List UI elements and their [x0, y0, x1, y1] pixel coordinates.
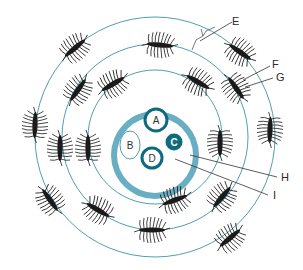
hairy-organism-icon — [207, 125, 233, 161]
callout-h: H — [281, 171, 289, 183]
hairy-organism-icon — [91, 64, 135, 105]
hairy-organism-icon — [256, 112, 283, 149]
hairy-organism-icon — [141, 30, 179, 59]
hairy-organism-icon — [47, 130, 73, 166]
label-d: D — [148, 153, 155, 164]
hairy-organism-icon — [53, 26, 97, 69]
diagram-canvas: A B C D — [0, 0, 303, 270]
callout-g: G — [276, 71, 285, 83]
callout-f: F — [272, 58, 279, 70]
central-cell: A B C D — [111, 107, 199, 199]
hairy-organism-icon — [176, 62, 220, 103]
label-c: C — [170, 137, 177, 148]
callout-i: I — [273, 189, 276, 201]
label-b: B — [127, 140, 134, 151]
hairy-organism-icon — [21, 107, 48, 144]
hairy-organism-icon — [57, 68, 99, 112]
hairy-organism-icon — [75, 130, 101, 166]
label-a: A — [153, 115, 160, 126]
hairy-organism-icon — [134, 217, 170, 243]
callout-e: E — [232, 15, 239, 27]
hairy-organism-icon — [218, 31, 262, 73]
hairy-organism-icon — [208, 216, 252, 259]
